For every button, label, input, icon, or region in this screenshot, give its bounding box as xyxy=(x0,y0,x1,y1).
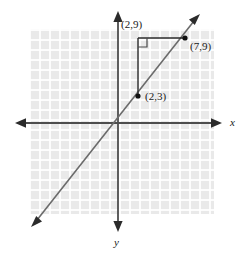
graph-canvas xyxy=(0,0,248,254)
y-axis-label: y xyxy=(114,237,119,248)
point-marker-7-9 xyxy=(182,35,187,40)
point-marker-2-3 xyxy=(135,93,140,98)
x-axis-label: x xyxy=(230,117,235,128)
point-label-7-9: (7,9) xyxy=(190,41,211,52)
coordinate-graph-figure: (2,9) (7,9) (2,3) x y xyxy=(0,0,248,254)
point-label-2-9: (2,9) xyxy=(121,19,142,30)
grid-background xyxy=(30,29,214,214)
point-label-2-3: (2,3) xyxy=(145,91,166,102)
